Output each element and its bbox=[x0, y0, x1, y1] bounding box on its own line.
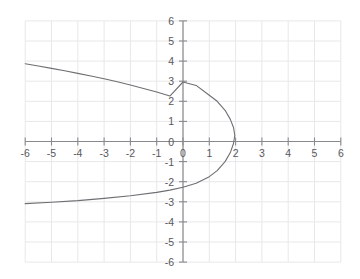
y-tick-label: -3 bbox=[165, 196, 174, 208]
x-tick-label: -6 bbox=[21, 147, 30, 159]
x-axis-tick-labels: -6-5-4-3-2-10123456 bbox=[21, 147, 344, 159]
x-tick-label: 5 bbox=[312, 147, 318, 159]
y-tick-label: -4 bbox=[165, 216, 174, 228]
x-tick-label: -4 bbox=[73, 147, 82, 159]
y-tick-label: 2 bbox=[168, 95, 174, 107]
x-tick-label: 1 bbox=[206, 147, 212, 159]
x-tick-label: -2 bbox=[126, 147, 135, 159]
y-tick-label: -1 bbox=[165, 156, 174, 168]
y-tick-label: -6 bbox=[165, 256, 174, 268]
y-tick-label: 1 bbox=[168, 115, 174, 127]
x-tick-label: 0 bbox=[180, 147, 186, 159]
x-tick-label: 4 bbox=[285, 147, 291, 159]
x-tick-label: 6 bbox=[338, 147, 344, 159]
coordinate-plane: -6-5-4-3-2-10123456 -6-5-4-3-2-10123456 bbox=[0, 0, 360, 279]
graph-canvas: -6-5-4-3-2-10123456 -6-5-4-3-2-10123456 bbox=[0, 0, 360, 279]
y-origin-label: 0 bbox=[168, 136, 174, 148]
x-tick-label: 3 bbox=[259, 147, 265, 159]
x-tick-label: -1 bbox=[152, 147, 161, 159]
y-tick-label: -5 bbox=[165, 236, 174, 248]
y-tick-label: 6 bbox=[168, 15, 174, 27]
y-tick-label: 4 bbox=[168, 55, 174, 67]
y-tick-label: -2 bbox=[165, 176, 174, 188]
y-tick-label: 3 bbox=[168, 75, 174, 87]
y-tick-label: 5 bbox=[168, 35, 174, 47]
x-tick-label: -5 bbox=[47, 147, 56, 159]
x-tick-label: -3 bbox=[99, 147, 108, 159]
x-tick-label: 2 bbox=[233, 147, 239, 159]
